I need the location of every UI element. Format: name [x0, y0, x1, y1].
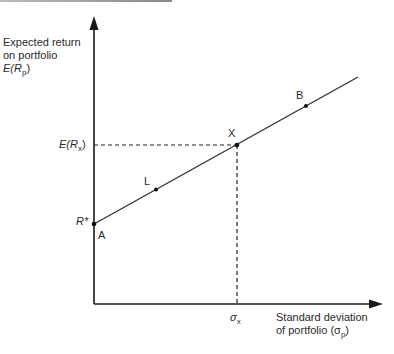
y-axis-arrow-icon — [90, 16, 99, 30]
rstar-tick-label: R* — [76, 215, 88, 228]
x-axis-label-line1: Standard deviation — [276, 311, 368, 324]
x-axis-label-line2: of portfolio (σp) — [276, 324, 368, 337]
point-a-label: A — [98, 229, 105, 242]
y-axis-label-line3: E(Rp) — [3, 62, 81, 75]
point-x-marker — [235, 143, 240, 148]
point-x-label: X — [228, 127, 235, 140]
point-l-marker — [154, 188, 158, 192]
x-axis-label: Standard deviation of portfolio (σp) — [276, 311, 368, 337]
point-b-label: B — [296, 89, 303, 102]
x-axis-arrow-icon — [369, 300, 383, 309]
y-axis-label-line1: Expected return — [3, 36, 81, 49]
y-axis-label: Expected return on portfolio E(Rp) — [3, 36, 81, 75]
capital-market-line — [94, 77, 358, 224]
point-l-label: L — [144, 175, 150, 188]
erx-tick-label: E(Rx) — [59, 138, 86, 151]
y-axis-label-line2: on portfolio — [3, 49, 81, 62]
point-a-marker — [92, 222, 97, 227]
sigmax-tick-label: σx — [230, 311, 241, 324]
point-b-marker — [304, 104, 308, 108]
